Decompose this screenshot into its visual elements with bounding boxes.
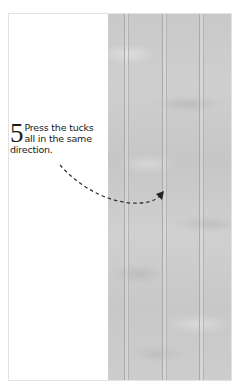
tuck-line — [162, 14, 168, 380]
illustration-panel — [8, 13, 232, 381]
step-number: 5 — [10, 123, 24, 144]
tuck-line — [124, 14, 130, 380]
fabric-illustration — [108, 14, 232, 380]
tuck-line — [199, 14, 205, 380]
step-caption: 5 Press the tucks all in the same direct… — [10, 122, 105, 155]
